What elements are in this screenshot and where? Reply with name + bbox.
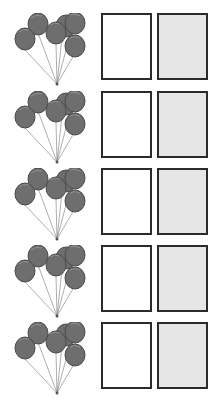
worksheet-row-2 bbox=[0, 91, 224, 167]
worksheet-row-1 bbox=[0, 13, 224, 89]
answer-box-shaded[interactable] bbox=[157, 245, 208, 312]
answer-box-blank[interactable] bbox=[101, 245, 152, 312]
answer-box-shaded[interactable] bbox=[157, 91, 208, 158]
worksheet-row-4 bbox=[0, 245, 224, 321]
answer-box-blank[interactable] bbox=[101, 168, 152, 235]
worksheet-row-5 bbox=[0, 322, 224, 398]
answer-box-blank[interactable] bbox=[101, 13, 152, 80]
balloon-bunch-icon bbox=[14, 91, 98, 167]
answer-box-blank[interactable] bbox=[101, 91, 152, 158]
answer-box-shaded[interactable] bbox=[157, 322, 208, 389]
balloon-bunch-icon bbox=[14, 168, 98, 244]
answer-box-shaded[interactable] bbox=[157, 168, 208, 235]
answer-box-blank[interactable] bbox=[101, 322, 152, 389]
balloon-bunch-icon bbox=[14, 322, 98, 398]
answer-box-shaded[interactable] bbox=[157, 13, 208, 80]
worksheet-row-3 bbox=[0, 168, 224, 244]
balloon-bunch-icon bbox=[14, 13, 98, 89]
balloon-bunch-icon bbox=[14, 245, 98, 321]
